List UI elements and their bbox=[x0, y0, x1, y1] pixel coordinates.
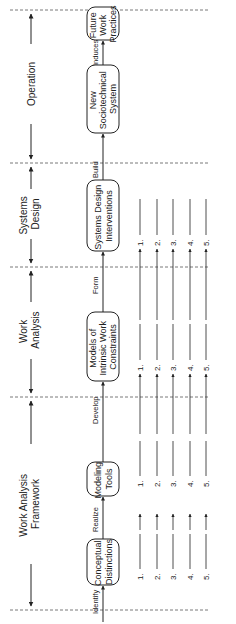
box-label: Conceptual Distinctions bbox=[93, 538, 114, 586]
svg-text:1.: 1. bbox=[136, 239, 145, 246]
box-systems-design-interventions bbox=[87, 180, 119, 251]
connector-develop: Develop bbox=[91, 396, 100, 424]
svg-text:3.: 3. bbox=[169, 364, 178, 371]
svg-text:2.: 2. bbox=[153, 480, 162, 487]
list-group-interventions: 1. 2. 3. 4. 5. bbox=[136, 199, 211, 246]
svg-text:5.: 5. bbox=[202, 364, 211, 371]
box-conceptual-distinctions bbox=[87, 539, 119, 585]
svg-text:4.: 4. bbox=[186, 364, 195, 371]
list-group-modeling: 1. 2. 3. 4. 5. bbox=[136, 441, 211, 487]
svg-text:3.: 3. bbox=[169, 480, 178, 487]
connector-realize: Realize bbox=[91, 507, 100, 532]
svg-text:1.: 1. bbox=[136, 573, 145, 580]
svg-text:3.: 3. bbox=[169, 239, 178, 246]
svg-text:2.: 2. bbox=[153, 364, 162, 371]
svg-text:4.: 4. bbox=[186, 573, 195, 580]
svg-text:2.: 2. bbox=[153, 239, 162, 246]
svg-text:5.: 5. bbox=[202, 480, 211, 487]
box-label: Systems Design Interventions bbox=[93, 182, 114, 250]
phase-label-work-analysis: Work Analysis bbox=[18, 311, 41, 348]
list-arrows-2 bbox=[140, 374, 206, 434]
svg-text:4.: 4. bbox=[186, 239, 195, 246]
list-arrows-1 bbox=[140, 514, 206, 530]
diagram-canvas: Work Analysis Framework Work Analysis Sy… bbox=[0, 0, 236, 624]
box-label: Models of Intrinsic Work Constraints bbox=[88, 319, 118, 376]
svg-text:4.: 4. bbox=[186, 480, 195, 487]
connector-identify: Identify bbox=[91, 590, 100, 614]
connector-induces: Induces bbox=[91, 39, 100, 66]
list-group-models: 1. 2. 3. 4. 5. bbox=[136, 324, 211, 371]
svg-text:5.: 5. bbox=[202, 573, 211, 580]
phase-label-operation: Operation bbox=[26, 62, 37, 106]
phase-label-systems-design: Systems Design bbox=[18, 193, 41, 234]
list-group-conceptual: 1. 2. 3. 4. 5. bbox=[136, 534, 211, 580]
box-modeling-tools bbox=[87, 462, 119, 496]
svg-text:2.: 2. bbox=[153, 573, 162, 580]
svg-text:5.: 5. bbox=[202, 239, 211, 246]
connector-build: Build bbox=[91, 161, 100, 178]
svg-text:1.: 1. bbox=[136, 364, 145, 371]
svg-text:3.: 3. bbox=[169, 573, 178, 580]
list-arrows-3 bbox=[140, 249, 206, 320]
svg-text:1.: 1. bbox=[136, 480, 145, 487]
phase-label-framework: Work Analysis Framework bbox=[18, 471, 41, 536]
connector-form: Form bbox=[91, 277, 100, 295]
